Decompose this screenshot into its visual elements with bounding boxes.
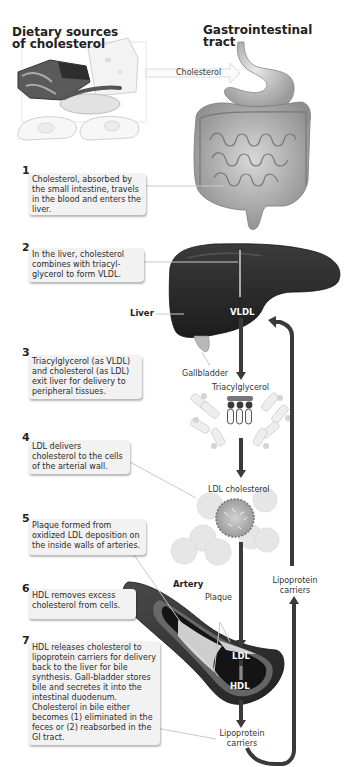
- heading-gastrointestinal-tract: Gastrointestinal tract: [203, 24, 312, 48]
- dietary-foods-illustration: [18, 38, 146, 140]
- ldl-cholesterol-label: LDL cholesterol: [208, 485, 270, 495]
- step-7-callout: HDL releases cholesterol to lipoprotein …: [28, 641, 160, 745]
- intestines-illustration: [194, 102, 311, 229]
- step-2-callout: In the liver, cholesterol combines with …: [28, 248, 144, 282]
- liver-label: Liver: [130, 308, 154, 318]
- hdl-label: HDL: [230, 681, 250, 691]
- ldl-label: LDL: [232, 651, 250, 661]
- step-4-callout: LDL delivers cholesterol to the cells of…: [28, 440, 130, 474]
- artery-label: Artery: [173, 579, 203, 589]
- triacylglycerol-label: Triacylglycerol: [212, 383, 269, 393]
- heading-dietary-sources: Dietary sources of cholesterol: [12, 26, 118, 50]
- lipoprotein-carriers-label-bottom: Lipoprotein carriers: [214, 729, 270, 749]
- ldl-particles-illustration: [171, 488, 279, 565]
- step-5-callout: Plaque formed from oxidized LDL depositi…: [28, 519, 146, 555]
- step-1-callout: Cholesterol, absorbed by the small intes…: [28, 173, 146, 215]
- liver-illustration: [169, 244, 340, 352]
- step-3-callout: Triacylglycerol (as VLDL) and cholestero…: [28, 355, 142, 399]
- lipoprotein-carriers-label-top: Lipoprotein carriers: [268, 576, 322, 596]
- vldl-label: VLDL: [230, 307, 254, 317]
- plaque-label: Plaque: [205, 593, 232, 603]
- step-6-callout: HDL removes excess cholesterol from cell…: [28, 589, 136, 619]
- cholesterol-arrow-label: Cholesterol: [176, 68, 221, 78]
- gallbladder-label: Gallbladder: [182, 369, 228, 379]
